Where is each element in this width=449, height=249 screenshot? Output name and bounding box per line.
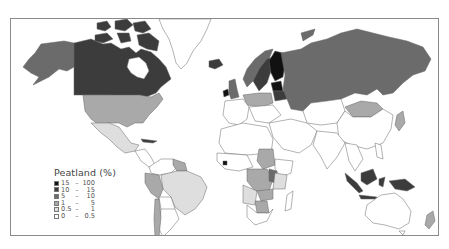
region-madagascar bbox=[285, 191, 293, 211]
region-usa bbox=[83, 93, 163, 127]
region-india bbox=[313, 131, 345, 169]
region-botswana bbox=[255, 201, 269, 213]
legend: Peatland (%) 15 – 100 10 – 15 5 – 10 1 –… bbox=[54, 167, 116, 220]
region-argentina bbox=[159, 209, 179, 236]
region-baltics bbox=[271, 81, 283, 91]
legend-swatch-10-15 bbox=[54, 187, 59, 192]
region-middle-east bbox=[269, 119, 317, 153]
legend-lo: 0 bbox=[61, 213, 73, 220]
legend-hi: 0.5 bbox=[81, 213, 95, 220]
region-zambia bbox=[257, 189, 273, 201]
region-tanzania bbox=[273, 173, 287, 189]
region-new-guinea bbox=[389, 179, 415, 191]
legend-row: 0 – 0.5 bbox=[54, 213, 116, 220]
region-sulawesi bbox=[379, 177, 385, 187]
region-iceland bbox=[209, 59, 223, 69]
legend-swatch-0-0.5 bbox=[54, 214, 59, 219]
region-greenland bbox=[159, 19, 211, 69]
region-peru bbox=[145, 173, 163, 199]
legend-swatch-15-100 bbox=[54, 181, 59, 186]
region-ireland bbox=[223, 89, 229, 97]
legend-swatch-1-5 bbox=[54, 201, 59, 206]
legend-swatch-0.5-1 bbox=[54, 207, 59, 212]
legend-title: Peatland (%) bbox=[54, 167, 116, 178]
region-sudan bbox=[257, 149, 275, 169]
legend-dash: – bbox=[73, 213, 81, 220]
region-japan bbox=[395, 111, 405, 131]
region-mexico bbox=[91, 123, 139, 153]
region-uk bbox=[229, 79, 239, 99]
region-cuba bbox=[141, 139, 157, 143]
region-philippines bbox=[375, 143, 383, 159]
region-balkans bbox=[249, 105, 281, 123]
region-tasmania bbox=[399, 231, 405, 235]
map-frame: Peatland (%) 15 – 100 10 – 15 5 – 10 1 –… bbox=[10, 18, 439, 236]
region-alaska bbox=[23, 41, 74, 85]
region-western-europe bbox=[223, 99, 249, 125]
region-russia bbox=[281, 29, 431, 111]
region-borneo bbox=[361, 169, 377, 185]
legend-swatch-5-10 bbox=[54, 194, 59, 199]
region-sumatra bbox=[345, 173, 363, 193]
region-central-america bbox=[135, 149, 155, 167]
region-novaya-zemlya bbox=[301, 29, 315, 41]
region-new-zealand bbox=[425, 211, 435, 229]
region-west-africa bbox=[217, 153, 253, 171]
region-guinea bbox=[223, 161, 227, 165]
region-java bbox=[359, 195, 377, 199]
